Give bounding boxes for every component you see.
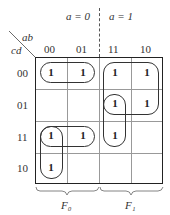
row-header-01: 01 bbox=[17, 99, 28, 111]
col-header-10: 10 bbox=[140, 43, 151, 55]
col-header-11: 11 bbox=[108, 43, 119, 55]
col-var-label: ab bbox=[22, 31, 33, 43]
group-loop-col11-vertical bbox=[103, 94, 126, 147]
group-loop-row00-left bbox=[40, 62, 95, 83]
row-header-11: 11 bbox=[17, 131, 28, 143]
half-divider bbox=[99, 8, 100, 57]
a-equals-1-label: a = 1 bbox=[109, 10, 133, 22]
brace-lines bbox=[0, 184, 170, 198]
row-header-00: 00 bbox=[17, 67, 28, 79]
row-var-label: cd bbox=[11, 44, 21, 56]
row-header-10: 10 bbox=[17, 162, 28, 174]
group-loop-col00-vertical bbox=[40, 126, 63, 179]
brace-label-f0: F₀ bbox=[61, 199, 72, 211]
col-header-00: 00 bbox=[44, 43, 55, 55]
brace-label-f1: F₁ bbox=[125, 199, 136, 211]
a-equals-0-label: a = 0 bbox=[66, 10, 90, 22]
col-header-01: 01 bbox=[76, 43, 87, 55]
